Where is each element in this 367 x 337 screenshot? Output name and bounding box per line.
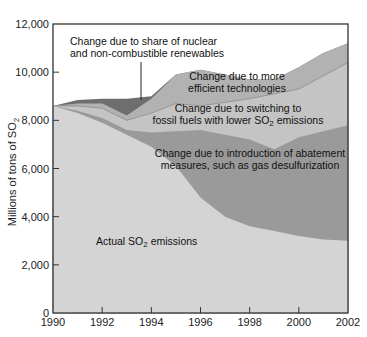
svg-text:fossil fuels with lower SO2 em: fossil fuels with lower SO2 emissions	[153, 114, 324, 128]
so2-emissions-stacked-area-chart: 02,0004,0006,0008,00010,00012,000 199019…	[0, 0, 367, 337]
y-tick-label: 12,000	[15, 18, 49, 30]
y-tick-label: 4,000	[21, 211, 49, 223]
svg-text:Change due to more: Change due to more	[189, 70, 285, 82]
svg-text:Change due to switching to: Change due to switching to	[175, 102, 302, 114]
svg-text:measures, such as gas desulfur: measures, such as gas desulfurization	[161, 159, 340, 171]
x-tick-label: 1990	[41, 316, 65, 328]
y-tick-label: 6,000	[21, 163, 49, 175]
svg-text:Change due to introduction of: Change due to introduction of abatement	[155, 147, 345, 159]
annotation-efficient: Change due to more efficient technologie…	[188, 70, 286, 94]
x-tick-label: 1996	[188, 316, 212, 328]
svg-text:efficient technologies: efficient technologies	[188, 82, 286, 94]
y-tick-label: 8,000	[21, 114, 49, 126]
annotation-fuel-switching: Change due to switching to fossil fuels …	[153, 102, 324, 128]
x-tick-label: 1998	[237, 316, 261, 328]
y-axis-label: Millions of tons of SO2	[6, 117, 21, 226]
x-tick-label: 2002	[336, 316, 360, 328]
annotation-abatement: Change due to introduction of abatement …	[155, 147, 345, 171]
svg-text:Change due to share of nuclear: Change due to share of nuclear	[70, 35, 218, 47]
x-tick-label: 1992	[90, 316, 114, 328]
x-tick-label: 1994	[139, 316, 163, 328]
svg-text:and non-combustible renewables: and non-combustible renewables	[70, 47, 224, 59]
x-tick-label: 2000	[287, 316, 311, 328]
y-tick-label: 2,000	[21, 259, 49, 271]
y-tick-label: 10,000	[15, 66, 49, 78]
